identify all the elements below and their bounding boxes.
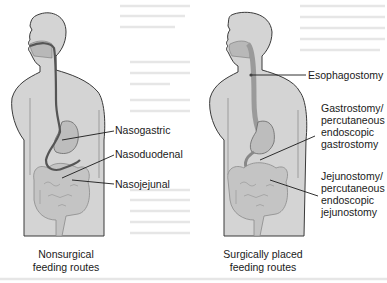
caption-nonsurgical-line1: Nonsurgical: [38, 248, 93, 260]
label-nasogastric: Nasogastric: [115, 124, 170, 136]
caption-surgical-line2: feeding routes: [230, 261, 297, 273]
jejunostomy-line-3: endoscopic: [321, 194, 385, 206]
gastrostomy-line-4: gastrostomy: [321, 138, 385, 150]
caption-surgical-line1: Surgically placed: [223, 248, 302, 260]
nonsurgical-figure: [12, 13, 114, 236]
caption-surgical: Surgically placed feeding routes: [208, 248, 318, 273]
jejunostomy-line-4: jejunostomy: [321, 206, 385, 218]
caption-nonsurgical-line2: feeding routes: [33, 261, 100, 273]
label-jejunostomy: Jejunostomy/ percutaneous endoscopic jej…: [321, 170, 385, 218]
gastrostomy-line-2: percutaneous: [321, 114, 385, 126]
jejunostomy-line-2: percutaneous: [321, 182, 385, 194]
label-nasojejunal: Nasojejunal: [115, 178, 170, 190]
label-nasoduodenal: Nasoduodenal: [115, 148, 183, 160]
gastrostomy-line-1: Gastrostomy/: [321, 102, 385, 114]
caption-nonsurgical: Nonsurgical feeding routes: [20, 248, 112, 273]
surgical-figure: [210, 12, 318, 236]
gastrostomy-line-3: endoscopic: [321, 126, 385, 138]
label-gastrostomy: Gastrostomy/ percutaneous endoscopic gas…: [321, 102, 385, 150]
jejunostomy-line-1: Jejunostomy/: [321, 170, 385, 182]
label-esophagostomy: Esophagostomy: [308, 69, 383, 81]
